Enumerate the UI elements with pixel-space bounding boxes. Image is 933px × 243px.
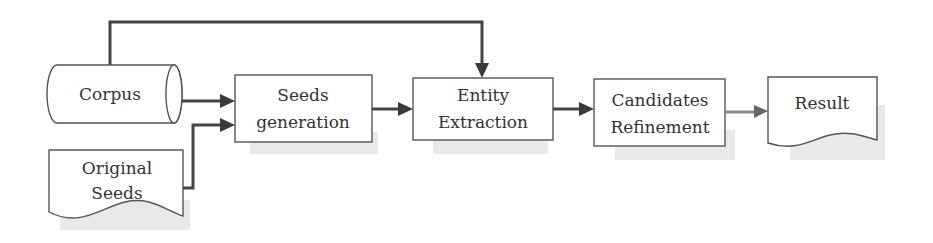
node-label: generation bbox=[256, 112, 350, 132]
node-label: Candidates bbox=[611, 90, 708, 110]
arrowhead-icon bbox=[398, 102, 413, 116]
arrowhead-icon bbox=[754, 105, 768, 118]
arrowhead-icon bbox=[220, 118, 235, 132]
node-label: Original bbox=[82, 158, 152, 178]
node-label: Refinement bbox=[610, 117, 709, 137]
edge-corpus-to-seeds-generation bbox=[182, 94, 235, 108]
arrowhead-icon bbox=[220, 94, 235, 108]
edge-entity-extraction-to-candidates-refinement bbox=[553, 102, 594, 116]
node-label: Extraction bbox=[438, 112, 528, 132]
node-seeds-generation: Seeds generation bbox=[235, 75, 372, 142]
node-result: Result bbox=[768, 77, 877, 146]
edge-candidates-refinement-to-result bbox=[725, 105, 768, 118]
node-entity-extraction: Entity Extraction bbox=[413, 78, 553, 140]
node-label: Seeds bbox=[91, 183, 142, 203]
node-label: Seeds bbox=[277, 85, 328, 105]
edge-original-seeds-to-seeds-generation bbox=[183, 118, 235, 188]
arrowhead-icon bbox=[579, 102, 594, 116]
node-label: Result bbox=[795, 93, 850, 113]
flowchart-diagram: Corpus Original Seeds Seeds generation E… bbox=[0, 0, 933, 243]
arrowhead-icon bbox=[475, 63, 489, 78]
node-candidates-refinement: Candidates Refinement bbox=[594, 79, 725, 146]
node-label: Entity bbox=[457, 85, 509, 105]
node-corpus: Corpus bbox=[47, 65, 182, 123]
node-label: Corpus bbox=[79, 84, 141, 104]
edge-seeds-generation-to-entity-extraction bbox=[372, 102, 413, 116]
